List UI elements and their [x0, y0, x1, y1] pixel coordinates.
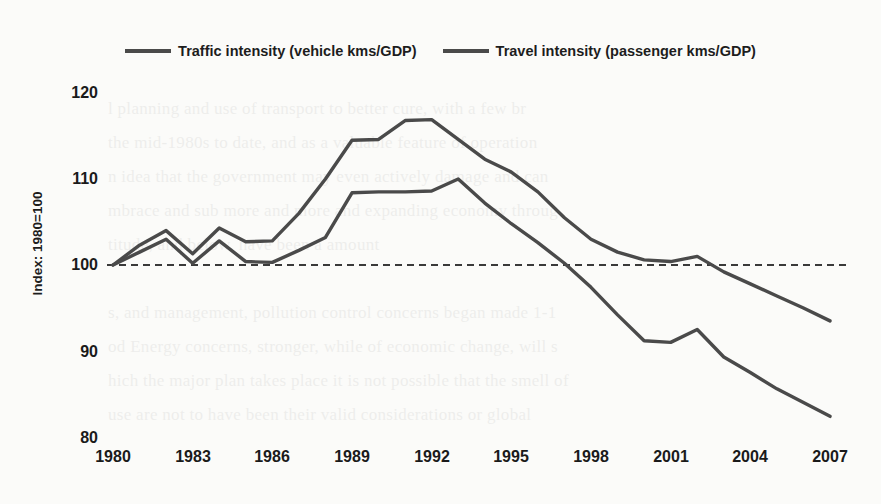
series-line-traffic-intensity — [113, 120, 830, 321]
series-line-travel-intensity — [113, 179, 830, 416]
line-chart-plot-area — [0, 0, 881, 504]
data-series-group — [113, 120, 830, 417]
